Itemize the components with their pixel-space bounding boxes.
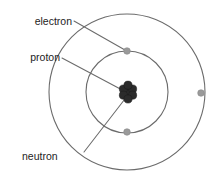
leader-line-proton: [62, 58, 126, 92]
atom-diagram: electron proton neutron: [0, 0, 211, 175]
label-neutron: neutron: [22, 150, 58, 162]
nucleus-cluster: [119, 81, 136, 103]
electron-dot-inner-top: [124, 48, 131, 55]
electron-dot-inner-bottom: [124, 129, 131, 136]
nucleon-particle: [124, 81, 132, 89]
label-electron: electron: [35, 15, 73, 27]
atom-diagram-canvas: electron proton neutron: [0, 0, 211, 175]
nucleon-particle: [124, 95, 132, 103]
electron-dot-outer-right: [198, 90, 205, 97]
leader-line-electron: [74, 21, 125, 50]
label-proton: proton: [30, 51, 60, 63]
leader-line-neutron: [84, 95, 128, 152]
